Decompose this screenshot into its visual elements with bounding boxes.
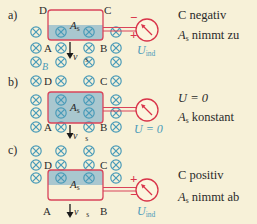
panel-b-voltmeter-icon [136,99,158,121]
panel-b-corner-a: A [44,121,52,133]
panel-c-velocity-label: v⃗s [74,206,89,221]
panel-c-corner-b: B [100,205,107,217]
panel-c-side-line1: C positiv [178,169,224,182]
panel-c-meter-plus: + [130,173,137,185]
panel-a-corner-c: C [104,4,111,16]
panel-a-corner-b: B [100,42,107,54]
panel-a-meter-minus: − [130,12,137,24]
panel-a-velocity-label: v⃗s [73,51,88,66]
panel-b-velocity-label: v⃗s [73,130,88,145]
panel-c-corner-d: D [44,159,52,171]
panel-c-side-line2: As nimmt ab [178,191,239,207]
panel-b-side-line1: U = 0 [178,92,208,105]
induction-diagram: a) D C A B As v⃗s B⃗ − + Uind C negativ … [0,0,257,224]
panel-a-voltmeter-icon [136,19,158,41]
panel-c-corner-c: C [100,159,107,171]
panel-a-meter-label: Uind [137,44,155,60]
panel-b-corner-d: D [44,75,52,87]
panel-b-corner-b: B [100,121,107,133]
panel-a-meter-plus: + [130,29,137,41]
panel-a-side-line2: As nimmt zu [178,29,239,45]
panel-c-velocity-arrow [67,212,74,218]
panel-a-side-line1: C negativ [178,9,226,22]
panel-a-label: a) [8,9,17,21]
panel-b-area-label: As [70,101,80,117]
panel-b-meter-label: U = 0 [134,123,163,135]
panel-c-label: c) [8,144,17,156]
panel-c-voltmeter-icon [136,179,158,201]
panel-a-corner-a: A [44,42,52,54]
panel-a-corner-d: D [39,4,47,16]
panel-a-field-label: B⃗ [42,61,56,72]
panel-b-label: b) [8,76,18,88]
panel-b-corner-c: C [100,75,107,87]
panel-b-side-line2: As konstant [178,111,234,127]
panel-c-meter-minus: − [130,189,137,201]
panel-a-area-label: As [70,19,80,35]
panel-c-meter-label: Uind [137,205,155,221]
panel-c-area-label: As [70,178,80,194]
panel-c-corner-a: A [43,205,51,217]
